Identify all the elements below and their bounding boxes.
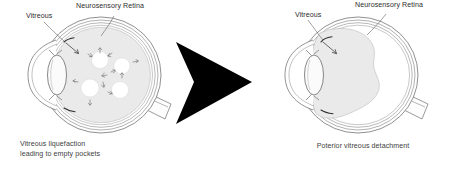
lens-right	[305, 55, 324, 95]
pocket	[81, 79, 99, 97]
eye-cross-section-right	[268, 0, 458, 140]
label-neurosensory-retina-right: Neurosensory Retina	[355, 1, 423, 9]
eye-cross-section-left	[4, 0, 194, 140]
caption-posterior-vitreous-detachment: Poterior vitreous detachment	[268, 142, 458, 152]
label-vitreous-left: Vitreous	[26, 12, 52, 20]
panel-posterior-vitreous-detachment: Vitreous Neurosensory Retina Poterior vi…	[268, 0, 458, 173]
eye-diagram-figure: Vitreous Neurosensory Retina Vitreous li…	[0, 0, 461, 173]
panel-vitreous-liquefaction: Vitreous Neurosensory Retina Vitreous li…	[4, 0, 194, 173]
label-vitreous-right: Vitreous	[295, 11, 321, 19]
lens-left	[48, 55, 67, 95]
pocket	[92, 52, 109, 69]
progression-arrow-container	[172, 36, 256, 128]
pocket	[114, 58, 130, 74]
pocket	[112, 82, 129, 99]
progression-arrow	[172, 36, 256, 128]
label-neurosensory-retina-left: Neurosensory Retina	[76, 2, 144, 10]
caption-vitreous-liquefaction: Vitreous liquefaction leading to empty p…	[20, 140, 210, 159]
